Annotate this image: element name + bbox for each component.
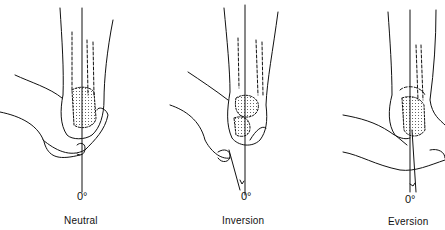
diagram-canvas: [0, 0, 445, 230]
inversion-caption: Inversion: [222, 215, 264, 226]
inversion-foot-illustration: [170, 5, 278, 195]
inversion-angle-line: [229, 150, 240, 190]
inversion-angle-label: 0°: [241, 190, 252, 202]
eversion-foot-illustration: [343, 10, 445, 192]
eversion-caption: Eversion: [388, 216, 429, 227]
eversion-angle-label: 0°: [405, 193, 416, 205]
neutral-foot-illustration: [0, 8, 113, 192]
neutral-caption: Neutral: [64, 215, 98, 226]
inversion-angle-arc: [240, 180, 244, 184]
neutral-angle-label: 0°: [77, 190, 88, 202]
eversion-angle-arc: [410, 183, 415, 186]
